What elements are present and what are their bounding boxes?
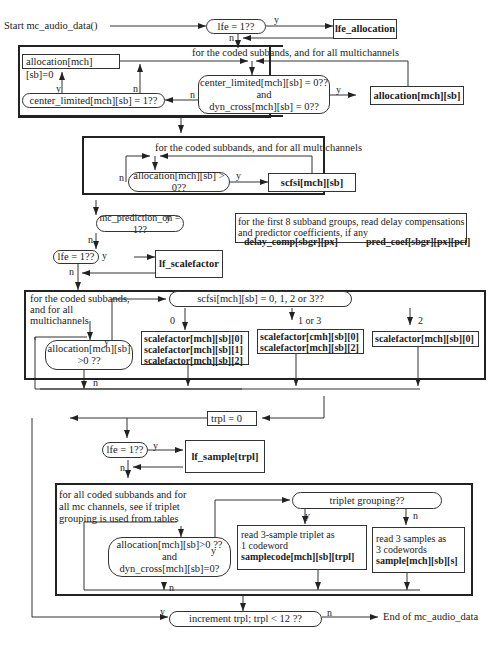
triplet-no-box: read 3 samples as 3 codewords sample[mch… [372,527,465,573]
sf13-line: scalefactor[mch][sb][2] [260,342,361,353]
cond-line3: dyn_cross[mch][sb]=0? [120,563,220,575]
label-n: n [69,266,74,277]
sf13-line: scalefactor[cmh][sb][0] [260,331,361,342]
alloc-line1: allocation[mch][sb] [48,343,131,355]
label-n: n [93,377,98,388]
cond-line2: and [256,89,271,101]
label-y: y [153,440,158,451]
triplet-decision: triplet grouping?? [292,492,442,509]
yes-line1: read 3-sample triplet as [241,529,363,540]
sf13-box: scalefactor[cmh][sb][0] scalefactor[mch]… [257,329,364,354]
cond-line2: and [162,551,177,563]
alloc-dyn-decision: allocation[mch][sb]>0 ?? and dyn_cross[m… [108,537,231,577]
sf2-box: scalefactor[mch][sb][0] [372,331,479,347]
label-y: y [160,606,165,617]
yes-line3: samplecode[mch][sb][trpl] [241,551,363,562]
label-n: n [229,32,234,43]
branch-13-label: 1 or 3 [298,315,321,326]
sf0-line: scalefactor[mch][sb][1] [144,344,246,355]
label-n: n [119,172,124,183]
allocation-decision: allocation[mch][sb] > 0?? [128,172,230,192]
allocation-decision-2: allocation[mch][sb] >0 ?? [45,340,133,370]
section4-loop-3: grouping is used from tables [59,513,179,525]
section2-loop-label: for the coded subbands, and for all mult… [155,142,362,154]
no-line3: sample[mch][sb][s] [376,555,461,566]
lfe-decision-1: lfe = 1?? [206,19,266,34]
increment-decision: increment trpl; trpl < 12 ?? [169,611,322,627]
end-label: End of mc_audio_data [383,611,478,623]
branch-2-label: 2 [418,315,423,326]
label-y: y [305,510,310,521]
label-n: n [169,582,174,593]
delay-comp: delay_comp[sbgr][px] [244,236,338,248]
triplet-yes-box: read 3-sample triplet as 1 codeword samp… [237,525,367,570]
section1-loop-label: for the coded subbands, and for all mult… [192,47,399,59]
sf0-box: scalefactor[mch][sb][0] scalefactor[mch]… [141,331,249,365]
alloc-zero-box: allocation[mch][sb]=0 [22,54,120,69]
center-dyn-decision: center_limited[mch][sb] = 0?? and dyn_cr… [198,75,330,114]
label-n: n [327,607,332,618]
sf0-line: scalefactor[mch][sb][0] [144,333,246,344]
lf-sample-box: lf_sample[trpl] [185,440,265,473]
label-n: n [120,462,125,473]
label-y: y [102,250,107,261]
center-limited-decision: center_limited[mch][sb] = 1?? [22,93,165,108]
label-y: y [56,83,61,94]
branch-0-label: 0 [170,315,175,326]
no-line1: read 3 samples as [376,533,461,544]
cond-line1: center_limited[mch][sb] = 0?? [200,77,328,89]
cond-line3: dyn_cross[mch][sb] = 0?? [209,101,319,113]
label-n: n [88,234,93,245]
section3-loop-3: multichannels [30,315,89,327]
section4-loop-1: for all coded subbands and for [59,489,186,501]
scfsi-box: scfsi[mch][sb] [268,173,356,192]
label-y: y [274,14,279,25]
lfe-decision-3: lfe = 1?? [102,442,148,458]
label-n: n [190,89,195,100]
trpl-init-box: trpl = 0 [207,411,257,426]
label-y: y [166,212,171,223]
yes-line2: 1 codeword [241,540,363,551]
lfe-decision-2: lfe = 1?? [53,250,99,264]
start-label: Start mc_audio_data() [4,20,98,32]
lf-scalefactor-box: lf_scalefactor [155,250,223,278]
no-line2: 3 codewords [376,544,461,555]
cond-line1: allocation[mch][sb]>0 ?? [117,539,223,551]
scfsi-decision: scfsi[mch][sb] = 0, 1, 2 or 3?? [169,291,352,307]
label-y: y [236,170,241,181]
label-y: y [336,84,341,95]
pred-coef: pred_coef[sbgr][px][pci] [366,236,470,248]
lfe-allocation-box: lfe_allocation [333,19,397,39]
label-n: n [133,83,138,94]
allocation-box: allocation[mch][sb] [370,86,464,105]
label-n: n [413,510,418,521]
label-y: y [104,336,109,347]
label-y: y [211,545,216,556]
alloc-line2: >0 ?? [77,355,100,367]
sf0-line: scalefactor[mch][sb][2] [144,355,246,366]
section4-loop-2: all mc channels, see if triplet [59,501,180,513]
